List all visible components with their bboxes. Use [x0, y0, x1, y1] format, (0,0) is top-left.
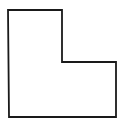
l-shape-polygon	[8, 10, 116, 117]
diagram-canvas	[0, 0, 129, 128]
l-shape-diagram	[0, 0, 129, 128]
